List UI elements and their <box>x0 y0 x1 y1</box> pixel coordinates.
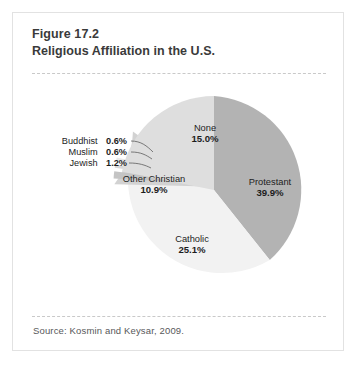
slice-value-other-christian: 10.9% <box>140 184 168 195</box>
callout-label-muslim: Muslim <box>69 147 98 157</box>
slice-value-catholic: 25.1% <box>178 244 206 255</box>
source-note: Source: Kosmin and Keysar, 2009. <box>33 325 184 336</box>
callout-value-muslim: 0.6% <box>106 147 127 157</box>
callout-buddhist: Buddhist 0.6% <box>62 130 127 147</box>
pie-chart: None 15.0% Protestant 39.9% Catholic 25.… <box>13 13 345 352</box>
callout-value-buddhist: 0.6% <box>106 136 127 146</box>
slice-value-none: 15.0% <box>191 133 219 144</box>
slice-label-protestant: Protestant <box>249 177 292 187</box>
slice-label-none: None <box>194 123 216 133</box>
slice-label-other-christian: Other Christian <box>123 174 186 184</box>
slice-value-protestant: 39.9% <box>256 187 284 198</box>
figure-card: Figure 17.2 Religious Affiliation in the… <box>12 12 344 351</box>
divider-bottom <box>32 316 326 317</box>
callout-value-jewish: 1.2% <box>106 158 127 168</box>
callout-label-buddhist: Buddhist <box>62 136 98 146</box>
slice-label-catholic: Catholic <box>175 234 209 244</box>
callout-label-jewish: Jewish <box>70 158 98 168</box>
